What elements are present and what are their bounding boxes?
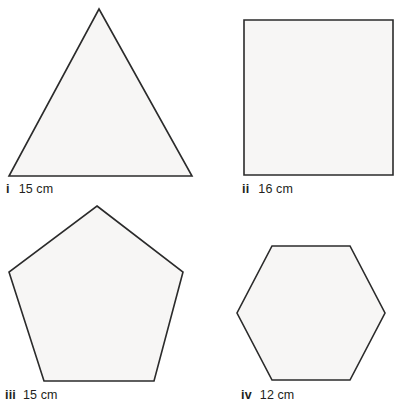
shape-label-iv: iv12 cm: [241, 389, 294, 402]
shape-label-i: i15 cm: [6, 183, 53, 196]
shape-measure-ii: 16 cm: [258, 182, 293, 196]
shape-measure-i: 15 cm: [19, 182, 54, 196]
shape-measure-iv: 12 cm: [260, 388, 295, 402]
shape-numeral-iv: iv: [241, 388, 252, 402]
shape-numeral-iii: iii: [5, 388, 16, 402]
shape-measure-iii: 15 cm: [23, 388, 58, 402]
shapes-canvas: [0, 0, 399, 409]
shape-regular-pentagon: [9, 206, 183, 381]
shape-label-iii: iii15 cm: [5, 389, 58, 402]
shape-square: [244, 20, 393, 175]
shape-numeral-ii: ii: [242, 182, 249, 196]
shape-label-ii: ii16 cm: [242, 183, 293, 196]
polygons-figure: i15 cm ii16 cm iii15 cm iv12 cm: [0, 0, 399, 409]
shape-numeral-i: i: [6, 182, 10, 196]
shape-regular-hexagon: [237, 246, 385, 380]
shape-equilateral-triangle: [9, 9, 192, 176]
